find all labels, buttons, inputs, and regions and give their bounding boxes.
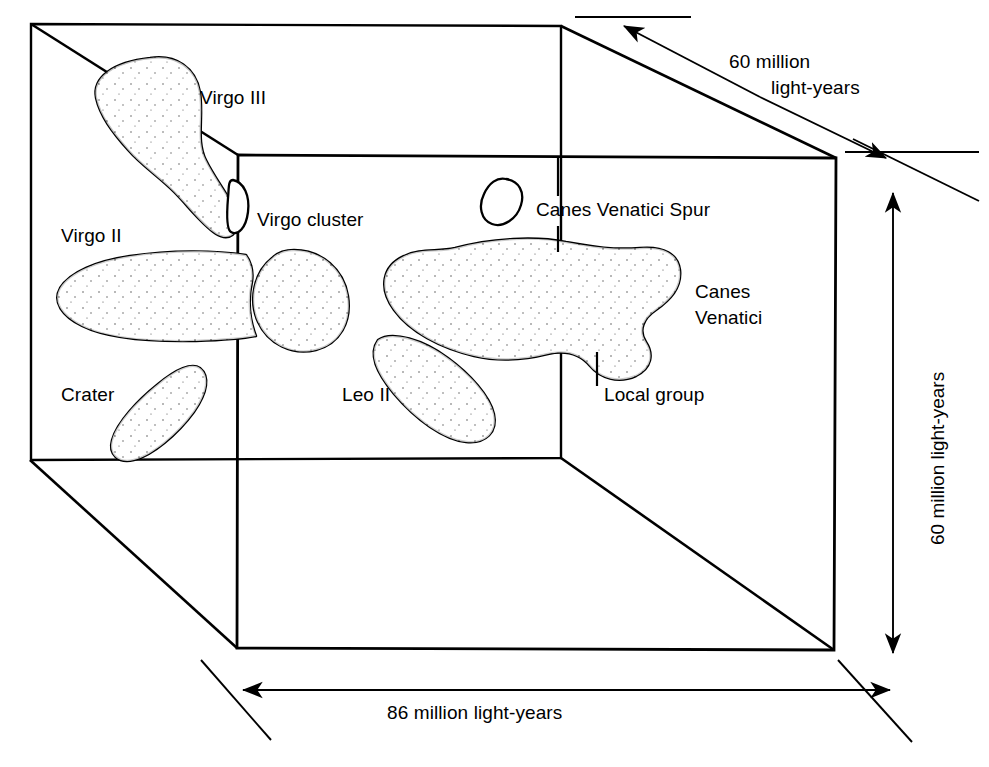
dimension-depth — [575, 17, 979, 201]
label-virgo-ii: Virgo II — [61, 225, 122, 247]
dim-label-height: 60 million light-years — [927, 372, 949, 545]
ext-slash-width-left — [201, 660, 271, 740]
label-canes-venatici-line1: Canes — [695, 281, 750, 303]
dim-label-depth-line2: light-years — [771, 77, 860, 99]
dimension-width — [201, 660, 912, 742]
label-canes-venatici-line2: Venatici — [695, 307, 762, 329]
diagram-svg — [0, 0, 989, 767]
diagram-canvas: Virgo III Virgo cluster Virgo II Crater … — [0, 0, 989, 767]
dim-label-width: 86 million light-years — [387, 702, 562, 724]
label-local-group: Local group — [604, 384, 704, 406]
ext-slash-depth — [853, 139, 979, 201]
dim-label-depth-line1: 60 million — [729, 51, 810, 73]
cloud-virgo-cluster — [245, 242, 360, 360]
cloud-canes-venatici-spur — [474, 170, 532, 232]
dim-arrow-depth-right — [760, 97, 886, 158]
edge-bot-left-depth — [30, 460, 237, 648]
label-canes-venatici-spur: Canes Venatici Spur — [536, 199, 710, 221]
label-crater: Crater — [61, 384, 114, 406]
ext-slash-width-right — [838, 660, 912, 742]
label-virgo-cluster: Virgo cluster — [257, 209, 364, 231]
label-leo-ii: Leo II — [342, 384, 390, 406]
cloud-virgo-ii — [50, 244, 270, 350]
edge-bot-right-depth — [561, 458, 834, 650]
label-virgo-iii: Virgo III — [200, 87, 266, 109]
cloud-crater — [100, 356, 218, 472]
